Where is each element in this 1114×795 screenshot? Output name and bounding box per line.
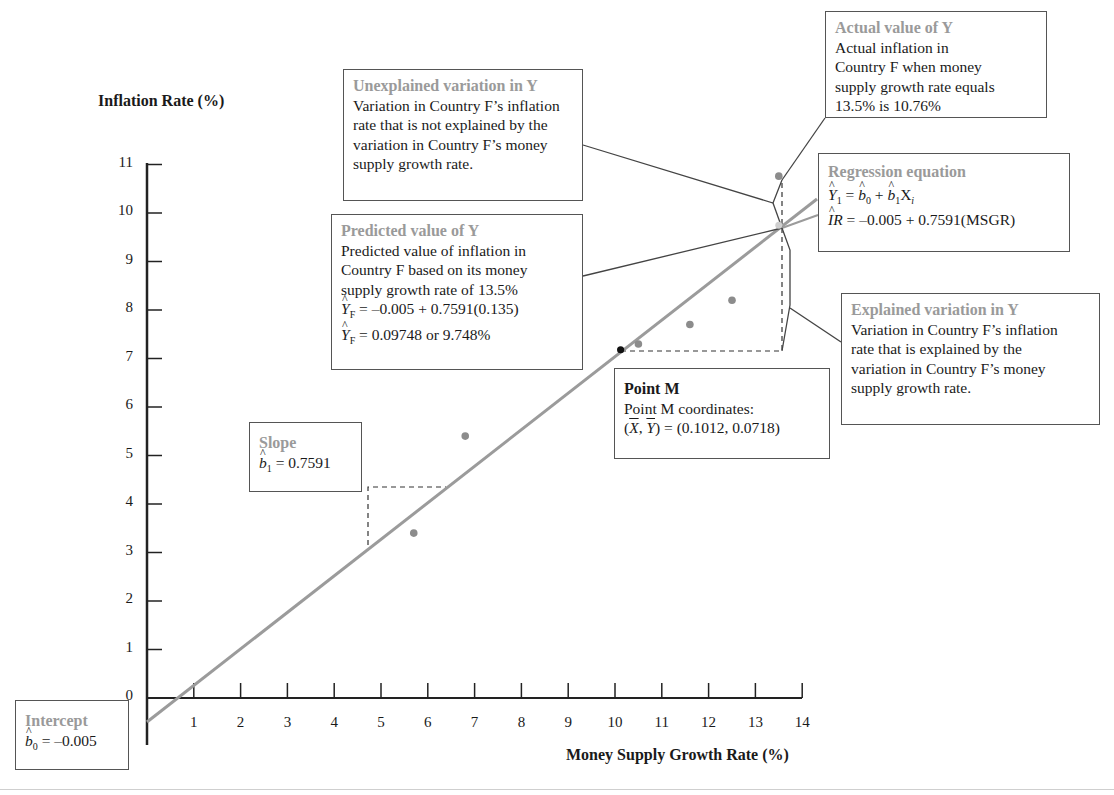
y-tick-label: 6	[103, 396, 133, 413]
actual-line-2: Country F when money	[835, 57, 1037, 77]
actual-line-4: 13.5% is 10.76%	[835, 96, 1037, 116]
explained-line-2: rate that is explained by the	[851, 339, 1090, 359]
predicted-line-1: Predicted value of inflation in	[341, 241, 573, 261]
unexplained-variation-box: Unexplained variation in Y Variation in …	[343, 69, 583, 201]
slope-box: Slope b1 = 0.7591	[249, 422, 362, 492]
x-tick-label: 11	[647, 714, 677, 731]
predicted-point-marker	[775, 222, 782, 229]
regression-general-equation: Y1 = b0 + b1Xi	[828, 185, 1060, 211]
predicted-line-2: Country F based on its money	[341, 260, 573, 280]
x-tick-label: 13	[740, 714, 770, 731]
explained-line-4: supply growth rate.	[851, 378, 1090, 398]
y-tick-label: 9	[103, 251, 133, 268]
y-tick-label: 2	[103, 590, 133, 607]
y-tick-label: 8	[103, 299, 133, 316]
x-tick-label: 5	[366, 714, 396, 731]
data-point	[686, 321, 694, 329]
unexplained-line-1: Variation in Country F’s inflation	[353, 96, 573, 116]
x-tick-label: 14	[787, 714, 817, 731]
x-tick-label: 4	[319, 714, 349, 731]
x-tick-label: 1	[179, 714, 209, 731]
explained-leader	[790, 308, 841, 342]
y-axis-ticks	[147, 165, 162, 650]
regression-equation-box: Regression equation Y1 = b0 + b1Xi IR = …	[818, 153, 1070, 252]
y-tick-label: 4	[103, 493, 133, 510]
actual-value-box: Actual value of Y Actual inflation in Co…	[825, 11, 1047, 118]
point-m-heading: Point M	[624, 379, 820, 399]
predicted-equation-1: YF = –0.005 + 0.7591(0.135)	[341, 299, 573, 325]
y-tick-label: 5	[103, 445, 133, 462]
data-point	[728, 297, 736, 305]
x-tick-label: 8	[506, 714, 536, 731]
unexplained-line-3: variation in Country F’s money	[353, 135, 573, 155]
predicted-value-box: Predicted value of Y Predicted value of …	[331, 214, 583, 370]
y-tick-label: 3	[103, 542, 133, 559]
regression-fitted-equation: IR = –0.005 + 0.7591(MSGR)	[828, 210, 1060, 230]
x-tick-label: 12	[694, 714, 724, 731]
predicted-leader	[583, 228, 782, 276]
actual-heading: Actual value of Y	[835, 18, 1037, 38]
y-tick-label: 1	[103, 639, 133, 656]
actual-line-1: Actual inflation in	[835, 38, 1037, 58]
slope-triangle	[368, 487, 446, 545]
explained-dashed-guide	[621, 180, 782, 351]
point-m-line-1: Point M coordinates:	[624, 399, 820, 419]
x-axis-title: Money Supply Growth Rate (%)	[566, 746, 789, 764]
x-tick-label: 7	[460, 714, 490, 731]
data-point	[635, 340, 643, 348]
data-point	[775, 172, 783, 180]
explained-bracket	[782, 228, 790, 351]
x-axis-ticks	[194, 683, 802, 698]
explained-line-3: variation in Country F’s money	[851, 359, 1090, 379]
unexplained-line-2: rate that is not explained by the	[353, 115, 573, 135]
data-point	[410, 529, 418, 537]
predicted-equation-2: YF = 0.09748 or 9.748%	[341, 325, 573, 351]
predicted-heading: Predicted value of Y	[341, 221, 573, 241]
x-tick-label: 9	[553, 714, 583, 731]
intercept-box: Intercept b0 = –0.005	[15, 700, 129, 770]
explained-variation-box: Explained variation in Y Variation in Co…	[841, 293, 1100, 425]
explained-heading: Explained variation in Y	[851, 300, 1090, 320]
actual-line-3: supply growth rate equals	[835, 77, 1037, 97]
predicted-line-3: supply growth rate of 13.5%	[341, 280, 573, 300]
y-tick-label: 7	[103, 348, 133, 365]
y-axis-title: Inflation Rate (%)	[98, 92, 224, 110]
unexplained-leader	[583, 145, 782, 203]
intercept-value: b0 = –0.005	[25, 731, 119, 757]
slope-heading: Slope	[259, 433, 352, 453]
intercept-heading: Intercept	[25, 711, 119, 731]
point-m-coordinates: (X, Y) = (0.1012, 0.0718)	[624, 418, 820, 438]
x-tick-label: 6	[413, 714, 443, 731]
unexplained-line-4: supply growth rate.	[353, 154, 573, 174]
data-point	[461, 432, 469, 440]
x-tick-label: 3	[272, 714, 302, 731]
slope-value: b1 = 0.7591	[259, 453, 352, 479]
point-m-marker	[617, 346, 624, 353]
y-tick-label: 11	[103, 154, 133, 171]
x-tick-label: 2	[226, 714, 256, 731]
point-m-box: Point M Point M coordinates: (X, Y) = (0…	[614, 368, 830, 459]
unexplained-heading: Unexplained variation in Y	[353, 76, 573, 96]
explained-line-1: Variation in Country F’s inflation	[851, 320, 1090, 340]
y-tick-label: 10	[103, 202, 133, 219]
bottom-rule	[0, 789, 1114, 790]
x-tick-label: 10	[600, 714, 630, 731]
